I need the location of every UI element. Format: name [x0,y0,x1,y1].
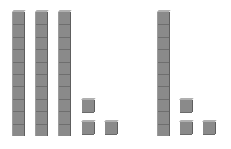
rod-top-face [35,10,49,12]
unit-cube [203,122,215,134]
rod-segment-line [59,37,70,38]
rod-segment-line [158,37,169,38]
rod-segment-line [158,86,169,87]
rod-segment-line [36,74,47,75]
rod-segment-line [36,99,47,100]
unit-cube [82,122,94,134]
rod-segment-line [13,74,24,75]
rod-segment-line [158,124,169,125]
rod-segment-line [36,49,47,50]
rod-segment-line [59,74,70,75]
rod-segment-line [59,99,70,100]
rod-top-face [58,10,72,12]
rod-segment-line [59,24,70,25]
rod-segment-line [13,99,24,100]
tens-rod [36,12,47,136]
tens-rod [59,12,70,136]
rod-segment-line [36,24,47,25]
rod-segment-line [13,124,24,125]
rod-segment-line [59,49,70,50]
rod-segment-line [59,62,70,63]
rod-segment-line [36,86,47,87]
rod-segment-line [158,49,169,50]
cube-top-face [104,120,119,122]
rod-segment-line [36,37,47,38]
rod-segment-line [59,111,70,112]
rod-segment-line [59,86,70,87]
cube-top-face [81,98,96,100]
rod-segment-line [13,49,24,50]
tens-rod [13,12,24,136]
rod-segment-line [13,111,24,112]
rod-top-face [12,10,26,12]
cube-top-face [202,120,217,122]
cube-top-face [81,120,96,122]
rod-top-face [157,10,171,12]
rod-segment-line [158,74,169,75]
rod-segment-line [36,62,47,63]
unit-cube [180,100,192,112]
rod-segment-line [13,37,24,38]
cube-top-face [179,98,194,100]
unit-cube [180,122,192,134]
unit-cube [82,100,94,112]
unit-cube [105,122,117,134]
rod-segment-line [13,86,24,87]
rod-segment-line [13,24,24,25]
rod-segment-line [158,99,169,100]
rod-segment-line [59,124,70,125]
rod-segment-line [36,111,47,112]
rod-segment-line [158,62,169,63]
rod-segment-line [158,24,169,25]
cube-top-face [179,120,194,122]
tens-rod [158,12,169,136]
rod-segment-line [36,124,47,125]
rod-segment-line [158,111,169,112]
rod-segment-line [13,62,24,63]
